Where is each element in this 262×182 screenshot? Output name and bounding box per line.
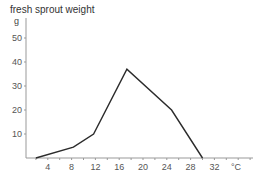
axes <box>24 18 253 160</box>
x-tick-label: 4 <box>45 162 50 172</box>
x-tick-label: 8 <box>69 162 74 172</box>
x-tick-label: 32 <box>209 162 219 172</box>
plot-area: 102030405048121620242832 °C <box>0 0 262 182</box>
data-line <box>36 69 203 158</box>
line-chart: fresh sprout weight g 102030405048121620… <box>0 0 262 182</box>
y-tick-label: 40 <box>12 57 22 67</box>
x-axis-unit-label: °C <box>231 162 242 172</box>
x-tick-label: 20 <box>138 162 148 172</box>
y-tick-label: 20 <box>12 105 22 115</box>
x-tick-label: 16 <box>114 162 124 172</box>
y-tick-label: 10 <box>12 129 22 139</box>
x-tick-label: 28 <box>186 162 196 172</box>
y-tick-label: 50 <box>12 33 22 43</box>
y-tick-label: 30 <box>12 81 22 91</box>
tick-labels: 102030405048121620242832 <box>12 33 219 172</box>
x-tick-label: 24 <box>162 162 172 172</box>
x-tick-label: 12 <box>90 162 100 172</box>
